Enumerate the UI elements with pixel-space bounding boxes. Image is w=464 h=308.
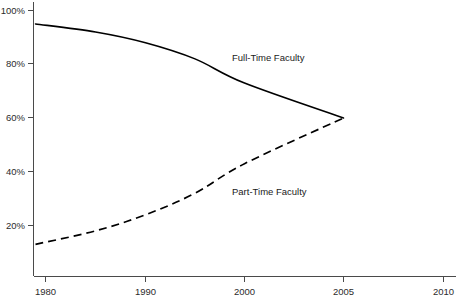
- series-line-part-time-faculty: [36, 118, 344, 244]
- x-tick-label-1980: 1980: [35, 286, 56, 297]
- y-tick-label-60: 60%: [6, 112, 26, 123]
- series-line-full-time-faculty: [36, 24, 344, 118]
- chart-canvas: 100% 80% 60% 40% 20% 1980 1990 2000 2005…: [0, 0, 464, 308]
- x-tick-label-1990: 1990: [135, 286, 156, 297]
- x-tick-label-2010: 2010: [433, 286, 454, 297]
- x-tick-label-2000: 2000: [234, 286, 255, 297]
- y-tick-label-80: 80%: [6, 58, 26, 69]
- series-label-full-time-faculty: Full-Time Faculty: [232, 52, 305, 63]
- faculty-trend-chart: 100% 80% 60% 40% 20% 1980 1990 2000 2005…: [0, 0, 464, 308]
- x-tick-label-2005: 2005: [333, 286, 354, 297]
- series-label-part-time-faculty: Part-Time Faculty: [232, 186, 307, 197]
- y-tick-label-20: 20%: [6, 220, 26, 231]
- y-tick-label-100: 100%: [1, 5, 26, 16]
- y-tick-label-40: 40%: [6, 166, 26, 177]
